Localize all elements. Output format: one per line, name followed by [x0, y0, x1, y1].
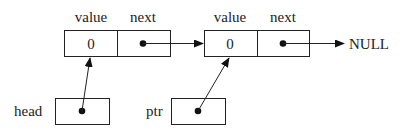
node-2: value next 0	[205, 9, 345, 57]
node-1-value: 0	[87, 36, 95, 52]
head-pointer: head	[14, 58, 110, 125]
node-1: value next 0	[65, 9, 204, 57]
node-2-next-header: next	[270, 9, 297, 25]
head-label: head	[14, 103, 43, 119]
ptr-label: ptr	[146, 103, 163, 119]
node-1-value-header: value	[75, 9, 108, 25]
ptr-pointer: ptr	[146, 58, 229, 125]
node-2-value: 0	[226, 36, 234, 52]
null-terminal: NULL	[349, 36, 389, 52]
node-2-value-header: value	[214, 9, 247, 25]
linked-list-diagram: value next 0 value next 0 NULL head ptr	[0, 0, 403, 136]
node-1-next-header: next	[130, 9, 157, 25]
